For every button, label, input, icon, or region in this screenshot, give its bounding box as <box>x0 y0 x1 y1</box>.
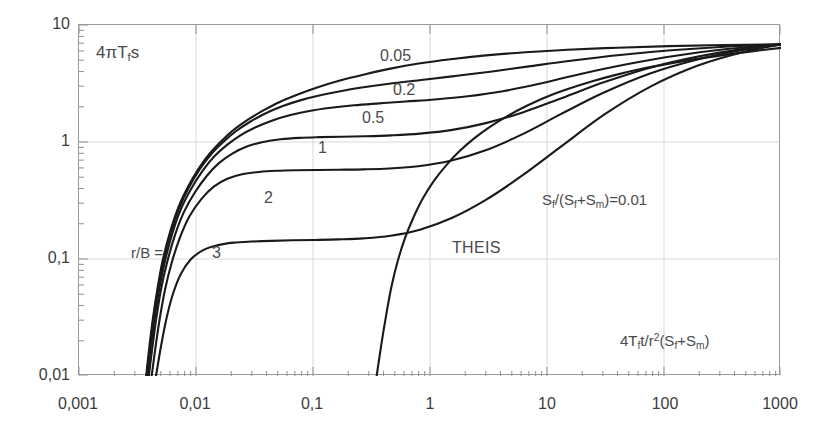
x-tick-label: 100 <box>615 396 715 412</box>
curve-lines <box>79 25 781 376</box>
curve-r-b-0-5 <box>148 44 782 376</box>
curve-r-b-1 <box>149 44 781 376</box>
curve-label-1: 1 <box>318 140 327 156</box>
rb-label: r/B = <box>131 245 163 260</box>
x-tick-label: 0,001 <box>28 396 128 412</box>
theis-label: THEIS <box>452 240 501 256</box>
y-tick-label: 1 <box>18 133 70 149</box>
chart-figure: 10 1 0,1 0,01 0,001 0,01 0,1 1 10 100 10… <box>0 0 819 444</box>
curve-label-3: 3 <box>212 245 221 261</box>
x-tick-label: 1000 <box>730 396 819 412</box>
curve-label-005: 0.05 <box>380 48 411 64</box>
x-tick-label: 1 <box>380 396 480 412</box>
parameter-note: Sf/(Sf+Sm)=0.01 <box>542 192 647 210</box>
curve-label-02: 0.2 <box>393 82 415 98</box>
y-tick-label: 0,01 <box>0 367 70 383</box>
curve-r-b-0-05 <box>146 44 781 376</box>
curve-label-05: 0.5 <box>362 110 384 126</box>
x-tick-label: 0,01 <box>145 396 245 412</box>
y-axis-title: 4πTfs <box>96 44 139 64</box>
curve-theis <box>377 48 781 376</box>
y-tick-label: 10 <box>18 16 70 32</box>
curve-r-b-3 <box>156 44 781 376</box>
plot-area <box>78 24 780 375</box>
x-tick-label: 0,1 <box>262 396 362 412</box>
x-tick-label: 10 <box>497 396 597 412</box>
curve-r-b-0-2 <box>147 44 781 376</box>
curve-label-2: 2 <box>264 190 273 206</box>
y-tick-label: 0,1 <box>8 250 70 266</box>
x-axis-title: 4Tft/r2(Sf+Sm) <box>620 333 709 351</box>
